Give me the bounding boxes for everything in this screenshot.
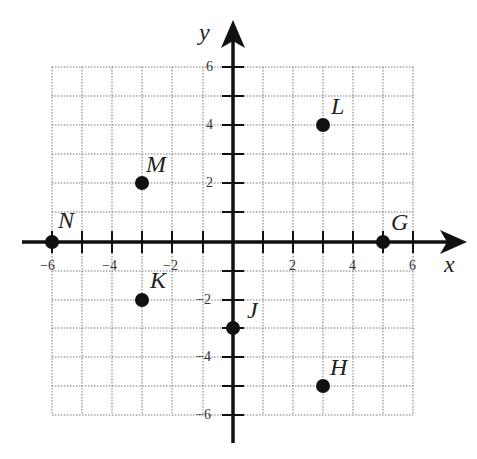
x-tick-label: 2 xyxy=(289,259,296,273)
point-label-H: H xyxy=(330,355,347,379)
x-tick-label: 6 xyxy=(409,259,416,273)
y-tick-label: −6 xyxy=(196,408,211,422)
point-K xyxy=(135,293,149,307)
point-label-M: M xyxy=(146,152,166,176)
points xyxy=(45,118,390,393)
point-L xyxy=(316,118,330,132)
point-G xyxy=(376,235,390,249)
y-tick-label: −2 xyxy=(196,293,211,307)
point-label-N: N xyxy=(58,208,74,232)
x-tick-label: −4 xyxy=(102,259,117,273)
point-N xyxy=(45,235,59,249)
x-tick-label: −6 xyxy=(40,259,55,273)
point-J xyxy=(226,321,240,335)
point-label-G: G xyxy=(391,210,408,234)
point-M xyxy=(135,176,149,190)
y-tick-label: 6 xyxy=(206,60,213,74)
y-tick-label: −4 xyxy=(196,350,211,364)
point-label-K: K xyxy=(150,268,166,292)
point-H xyxy=(316,379,330,393)
x-axis-label: x xyxy=(444,252,455,276)
point-label-L: L xyxy=(331,94,344,118)
x-tick-label: 4 xyxy=(349,259,356,273)
y-axis-label: y xyxy=(199,20,210,44)
y-tick-label: 2 xyxy=(206,176,213,190)
y-tick-label: 4 xyxy=(206,118,213,132)
point-label-J: J xyxy=(247,298,258,322)
